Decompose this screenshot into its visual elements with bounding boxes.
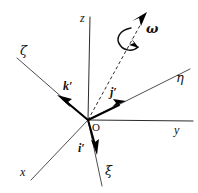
z-axis-line <box>88 17 90 120</box>
x-axis-label: x <box>20 166 25 178</box>
zeta-axis-label: ζ <box>20 44 27 57</box>
omega-arrowhead-icon <box>132 12 147 26</box>
rotating-frame-figure: z y x ζ η ξ i′ j′ k′ ω O <box>0 0 198 193</box>
i-prime-label: i′ <box>78 142 85 154</box>
origin-label: O <box>92 122 100 133</box>
y-axis-line <box>88 120 193 121</box>
j-prime-label: j′ <box>110 86 117 98</box>
y-axis-label: y <box>174 124 179 136</box>
eta-axis-label: η <box>176 71 184 84</box>
figure-canvas <box>0 0 198 193</box>
z-axis-label: z <box>80 12 85 24</box>
omega-label: ω <box>146 22 158 35</box>
k-prime-label: k′ <box>63 80 72 92</box>
xi-axis-label: ξ <box>105 164 112 177</box>
